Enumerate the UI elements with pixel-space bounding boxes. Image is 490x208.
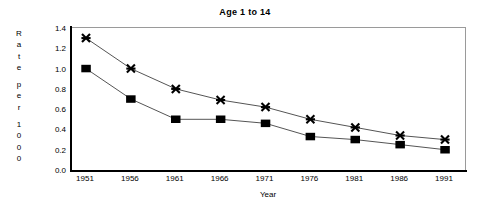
chart-container: Age 1 to 14 Rateper1000 0.00.20.40.60.81… — [0, 0, 490, 208]
x-tick-label: 1991 — [435, 174, 453, 183]
x-tick-label: 1961 — [166, 174, 184, 183]
y-axis-line — [70, 26, 72, 172]
y-tick-label: 1.4 — [40, 24, 66, 33]
y-axis-label-char: 0 — [8, 153, 30, 164]
x-tick-label: 1971 — [256, 174, 274, 183]
y-axis-label-char: 1 — [8, 119, 30, 130]
y-tick-label: 0.6 — [40, 105, 66, 114]
y-axis-ticks: 0.00.20.40.60.81.01.21.4 — [40, 27, 66, 171]
x-tick-label: 1951 — [76, 174, 94, 183]
x-tick-label: 1956 — [121, 174, 139, 183]
y-axis-label-char: 0 — [8, 142, 30, 153]
y-tick-label: 0.8 — [40, 84, 66, 93]
y-axis-label-char: R — [8, 28, 30, 39]
y-axis-label-char: e — [8, 62, 30, 73]
x-axis-label: Year — [70, 190, 466, 199]
y-axis-label-char: r — [8, 102, 30, 113]
x-axis-ticks: 195119561961196619711976198119861991 — [70, 174, 466, 188]
x-axis-line — [70, 170, 467, 172]
x-tick-label: 1976 — [300, 174, 318, 183]
y-axis-label-char: t — [8, 51, 30, 62]
y-axis-label-char: e — [8, 90, 30, 101]
y-tick-label: 1.0 — [40, 64, 66, 73]
y-axis-label-char: p — [8, 79, 30, 90]
x-tick-label: 1986 — [390, 174, 408, 183]
chart-title: Age 1 to 14 — [0, 7, 490, 17]
x-tick-label: 1981 — [345, 174, 363, 183]
plot-area — [70, 27, 466, 171]
y-tick-label: 0.4 — [40, 125, 66, 134]
x-tick-label: 1966 — [211, 174, 229, 183]
y-tick-label: 1.2 — [40, 44, 66, 53]
y-axis-label-char: a — [8, 39, 30, 50]
y-tick-label: 0.0 — [40, 166, 66, 175]
y-axis-label: Rateper1000 — [8, 28, 30, 164]
y-axis-label-char: 0 — [8, 130, 30, 141]
y-tick-label: 0.2 — [40, 145, 66, 154]
